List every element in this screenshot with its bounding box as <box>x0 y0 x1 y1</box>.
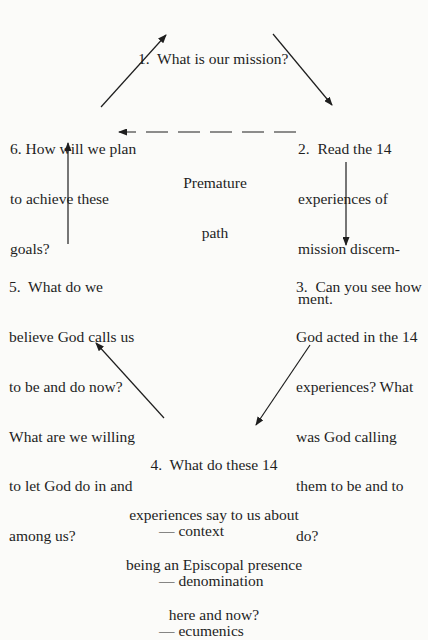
node-1-mission: 1. What is our mission? <box>138 18 288 84</box>
node-6-line: to achieve these <box>10 191 136 208</box>
node-5-line: among us? <box>9 528 135 545</box>
node-3-line: was God calling <box>296 429 422 446</box>
node-1-line: 1. What is our mission? <box>138 51 288 68</box>
node-4-line: 4. What do these 14 <box>114 457 314 474</box>
premature-path-label-line: path <box>170 225 260 242</box>
node-3-god-acted: 3. Can you see how God acted in the 14 e… <box>296 246 422 561</box>
node-5-line: to let God do in and <box>9 478 135 495</box>
node-4-sub-items: — context — denomination — ecumenics <box>159 490 264 640</box>
node-6-line: 6. How will we plan <box>10 141 136 158</box>
sub-item-ecumenics: — ecumenics <box>159 623 264 640</box>
node-2-line: experiences of <box>298 191 400 208</box>
node-3-line: experiences? What <box>296 379 422 396</box>
node-3-line: God acted in the 14 <box>296 329 422 346</box>
node-5-line: 5. What do we <box>9 279 135 296</box>
node-2-line: 2. Read the 14 <box>298 141 400 158</box>
node-5-line: to be and do now? <box>9 379 135 396</box>
premature-path-label-line: Premature <box>170 175 260 192</box>
premature-path-label: Premature path <box>170 142 260 258</box>
node-3-line: them to be and to <box>296 478 422 495</box>
node-5-line: What are we willing <box>9 429 135 446</box>
node-5-god-calls-us: 5. What do we believe God calls us to be… <box>9 246 135 561</box>
node-3-line: 3. Can you see how <box>296 279 422 296</box>
node-6-line: goals? <box>10 241 136 258</box>
node-5-line: believe God calls us <box>9 329 135 346</box>
node-6-plan-goals: 6. How will we plan to achieve these goa… <box>10 108 136 274</box>
sub-item-context: — context <box>159 523 264 540</box>
sub-item-denomination: — denomination <box>159 573 264 590</box>
node-3-line: do? <box>296 528 422 545</box>
